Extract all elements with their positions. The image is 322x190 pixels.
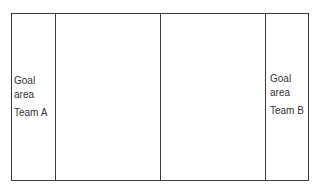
goal-line-team-b (265, 13, 266, 181)
goal-area-word-1: Goal (14, 74, 47, 88)
goal-area-team-b-label: Goal area Team B (270, 72, 304, 118)
center-line (160, 13, 161, 181)
goal-line-team-a (55, 13, 56, 181)
team-b-name: Team B (270, 104, 304, 118)
goal-area-word-1: Goal (270, 72, 304, 86)
goal-area-team-a-label: Goal area Team A (14, 74, 47, 120)
goal-area-word-2: area (270, 86, 304, 100)
goal-area-word-2: area (14, 88, 47, 102)
team-a-name: Team A (14, 106, 47, 120)
